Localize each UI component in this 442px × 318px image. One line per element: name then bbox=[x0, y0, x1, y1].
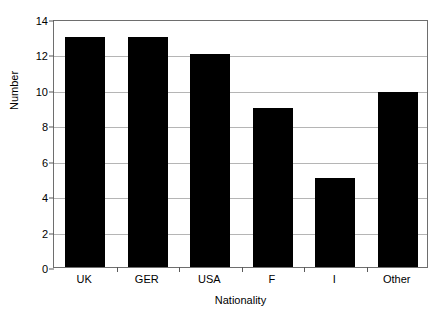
y-tick-label: 10 bbox=[36, 86, 48, 97]
bar bbox=[315, 178, 355, 267]
y-tick-label: 4 bbox=[42, 193, 48, 204]
bar bbox=[190, 54, 230, 267]
bar bbox=[65, 37, 105, 267]
x-tick-label: F bbox=[268, 273, 275, 285]
bar bbox=[128, 37, 168, 267]
y-tick-label: 6 bbox=[42, 157, 48, 168]
x-tick-mark bbox=[242, 267, 243, 272]
x-tick-label: GER bbox=[135, 273, 159, 285]
x-tick-label: UK bbox=[77, 273, 92, 285]
x-tick-label: USA bbox=[198, 273, 221, 285]
y-tick-label: 14 bbox=[36, 16, 48, 27]
x-axis-title: Nationality bbox=[53, 294, 428, 306]
y-tick-label: 0 bbox=[42, 264, 48, 275]
y-tick-mark bbox=[49, 269, 54, 270]
x-tick-mark bbox=[367, 267, 368, 272]
y-tick-label: 12 bbox=[36, 51, 48, 62]
plot-area: 02468101214 bbox=[53, 20, 428, 268]
y-axis-title: Number bbox=[8, 71, 20, 110]
bar bbox=[253, 108, 293, 267]
bar bbox=[378, 92, 418, 267]
x-tick-label: I bbox=[333, 273, 336, 285]
x-tick-mark bbox=[179, 267, 180, 272]
y-tick-label: 8 bbox=[42, 122, 48, 133]
x-tick-mark bbox=[304, 267, 305, 272]
y-tick-label: 2 bbox=[42, 228, 48, 239]
x-tick-label: Other bbox=[383, 273, 411, 285]
bars-layer bbox=[54, 21, 427, 267]
x-tick-mark bbox=[117, 267, 118, 272]
bar-chart: Number 02468101214 UKGERUSAFIOther Natio… bbox=[0, 0, 442, 318]
